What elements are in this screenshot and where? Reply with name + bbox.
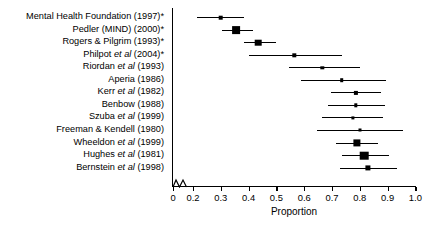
study-label: Rogers & Pilgrim (1993)*: [0, 36, 164, 46]
x-axis-tick-label: 0.4: [242, 192, 255, 203]
point-estimate-marker: [293, 53, 296, 56]
forest-plot-figure: Mental Health Foundation (1997)*Pedler (…: [0, 0, 428, 231]
point-estimate-marker: [255, 39, 262, 46]
x-axis-tick-label: 0.8: [353, 192, 366, 203]
point-estimate-marker: [360, 151, 369, 160]
x-axis-tick-label: 1.0: [409, 192, 422, 203]
point-estimate-marker: [340, 78, 344, 82]
study-label: Freeman & Kendell (1980): [0, 124, 164, 134]
x-axis-tick-label: 0.9: [381, 192, 394, 203]
x-axis-tick: [388, 187, 389, 191]
axis-break-icon: [173, 176, 192, 188]
study-label: Philpot et al (2004)*: [0, 49, 164, 59]
point-estimate-marker: [358, 129, 361, 132]
y-axis-line: [172, 8, 173, 186]
plot-area: 00.20.30.40.50.60.70.80.91.0 Proportion: [172, 0, 428, 231]
study-label: Bernstein et al (1998): [0, 162, 164, 172]
x-axis-tick-label: 0.3: [214, 192, 227, 203]
point-estimate-marker: [351, 116, 354, 119]
x-axis-tick: [304, 187, 305, 191]
study-label: Mental Health Foundation (1997)*: [0, 11, 164, 21]
point-estimate-marker: [219, 15, 224, 20]
x-axis-tick-label: 0.5: [270, 192, 283, 203]
point-estimate-marker: [353, 139, 360, 146]
study-label: Benbow (1988): [0, 99, 164, 109]
point-estimate-marker: [321, 66, 324, 69]
confidence-interval-line: [301, 80, 386, 81]
x-axis-tick-label: 0: [170, 192, 175, 203]
study-label-column: Mental Health Foundation (1997)*Pedler (…: [0, 0, 168, 180]
x-axis-tick: [193, 187, 194, 191]
point-estimate-marker: [366, 166, 371, 171]
x-axis-tick: [276, 187, 277, 191]
x-axis-tick: [221, 187, 222, 191]
x-axis-tick: [332, 187, 333, 191]
point-estimate-marker: [354, 104, 357, 107]
confidence-interval-line: [289, 67, 360, 68]
point-estimate-marker: [354, 91, 358, 95]
x-axis-label: Proportion: [172, 206, 416, 217]
x-axis-tick: [360, 187, 361, 191]
x-axis-tick-label: 0.7: [325, 192, 338, 203]
study-label: Pedler (MIND) (2000)*: [0, 24, 164, 34]
x-axis-line: [172, 186, 416, 187]
x-axis-tick-label: 0.6: [298, 192, 311, 203]
study-label: Hughes et al (1981): [0, 149, 164, 159]
study-label: Riordan et al (1993): [0, 61, 164, 71]
x-axis-tick-label: 0.2: [186, 192, 199, 203]
x-axis-tick: [173, 187, 174, 191]
x-axis-tick: [415, 187, 416, 191]
study-label: Szuba et al (1999): [0, 111, 164, 121]
point-estimate-marker: [232, 26, 240, 34]
study-label: Kerr et al (1982): [0, 86, 164, 96]
x-axis-tick: [249, 187, 250, 191]
study-label: Wheeldon et al (1999): [0, 137, 164, 147]
study-label: Aperia (1986): [0, 74, 164, 84]
